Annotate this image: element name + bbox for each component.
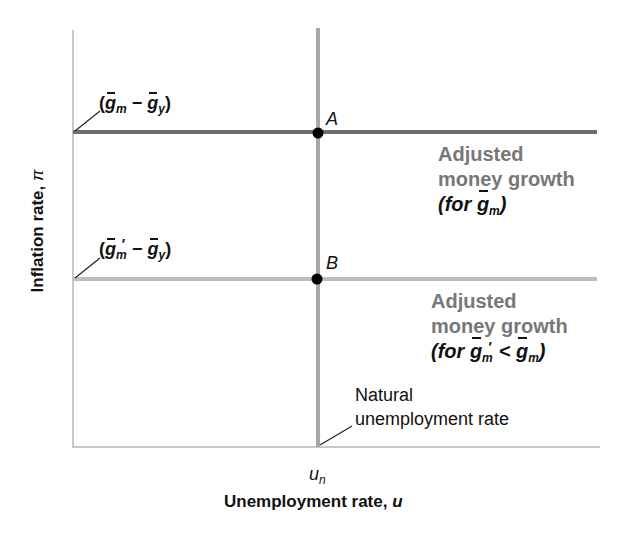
curve-label-lower-line2: money growth xyxy=(431,314,568,339)
subscript-m: m xyxy=(489,204,500,218)
natural-label-line1: Natural xyxy=(355,383,509,407)
leader-line-lower xyxy=(75,258,100,278)
subscript-m: m xyxy=(528,351,539,365)
paren-close: ) xyxy=(539,340,546,362)
ytick-lower-label: (gm′ − gy) xyxy=(99,240,171,258)
paren-close: ) xyxy=(500,193,507,215)
g-symbol: g xyxy=(516,340,528,362)
x-axis-title-text: Unemployment rate, xyxy=(224,492,392,511)
gbar-m-prime: g xyxy=(105,240,116,258)
gbar-y: g xyxy=(148,240,159,258)
point-b-marker xyxy=(312,274,323,285)
g-symbol: g xyxy=(105,93,116,113)
g-symbol: g xyxy=(147,93,158,113)
prime-mark: ′ xyxy=(488,339,491,355)
natural-label-line2: unemployment rate xyxy=(355,407,509,431)
less-than: < xyxy=(493,340,516,362)
g-symbol: g xyxy=(470,340,482,362)
gbar-m: g xyxy=(105,94,116,112)
xtick-un-label: un xyxy=(309,465,326,483)
point-a-marker xyxy=(313,128,324,139)
g-symbol: g xyxy=(105,239,116,259)
curve-label-upper-line2: money growth xyxy=(438,167,575,192)
text-for: (for xyxy=(431,340,470,362)
gbar-y: g xyxy=(147,94,158,112)
x-axis-title: Unemployment rate, u xyxy=(224,493,403,510)
u-symbol: u xyxy=(309,464,319,484)
paren-close: ) xyxy=(165,93,171,113)
paren-close: ) xyxy=(165,239,171,259)
ytick-upper-label: (gm − gy) xyxy=(99,94,171,112)
y-axis-title: Inflation rate, π xyxy=(28,170,48,293)
g-symbol: g xyxy=(477,193,489,215)
y-axis-variable: π xyxy=(28,170,47,181)
leader-line-natural xyxy=(320,426,352,445)
prime-mark: ′ xyxy=(122,236,125,252)
y-axis-title-text: Inflation rate, xyxy=(28,181,47,292)
minus-sign: − xyxy=(127,239,148,259)
minus-sign: − xyxy=(127,93,148,113)
gbar-m-prime: g xyxy=(470,339,482,364)
gbar-m: g xyxy=(477,192,489,217)
gbar-m: g xyxy=(516,339,528,364)
curve-label-upper-line1: Adjusted xyxy=(438,142,575,167)
subscript-n: n xyxy=(319,473,326,487)
curve-label-lower-line1: Adjusted xyxy=(431,289,568,314)
subscript-y: y xyxy=(158,102,165,116)
subscript-m: m xyxy=(116,102,127,116)
point-a-label: A xyxy=(326,110,338,128)
natural-unemployment-label: Natural unemployment rate xyxy=(355,383,509,431)
curve-label-upper-line3: (for gm) xyxy=(438,192,575,217)
plot-area xyxy=(0,0,630,540)
leader-line-upper xyxy=(75,111,100,131)
curve-label-lower-line3: (for gm′ < gm) xyxy=(431,339,568,366)
g-symbol: g xyxy=(148,239,159,259)
chart-canvas: (gm − gy) (gm′ − gy) A B Adjusted money … xyxy=(0,0,630,540)
curve-label-upper: Adjusted money growth (for gm) xyxy=(438,142,575,217)
point-b-label: B xyxy=(326,254,338,272)
curve-label-lower: Adjusted money growth (for gm′ < gm) xyxy=(431,289,568,366)
x-axis-variable: u xyxy=(392,492,402,511)
text-for: (for xyxy=(438,193,477,215)
